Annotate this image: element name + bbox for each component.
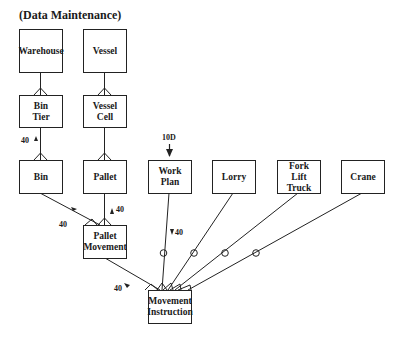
entity-lorry: Lorry (212, 160, 256, 194)
entity-vessel-cell: Vessel Cell (83, 95, 127, 128)
entity-work-plan: Work Plan (148, 160, 192, 194)
entity-fork-lift-truck: Fork Lift Truck (277, 160, 321, 194)
entity-movement-instruction: Movement Instruction (148, 290, 192, 324)
entity-vessel: Vessel (83, 29, 127, 73)
label-workplan-movement-volume: 40 (175, 228, 183, 237)
label-bin-bintier-volume: 40 (21, 136, 29, 145)
entity-bin: Bin (19, 160, 63, 194)
label-workplan-frequency: 10D (162, 133, 176, 142)
entity-bin-tier: Bin Tier (19, 95, 63, 128)
entity-pallet: Pallet (83, 160, 127, 194)
entity-pallet-movement: Pallet Movement (83, 225, 127, 259)
entity-crane: Crane (341, 160, 385, 194)
label-palletmovement-movement-volume: 40 (114, 284, 122, 293)
entity-warehouse: Warehouse (19, 29, 63, 73)
label-bin-palletmovement-volume: 40 (59, 220, 67, 229)
label-pallet-palletmovement-volume: 40 (116, 205, 124, 214)
